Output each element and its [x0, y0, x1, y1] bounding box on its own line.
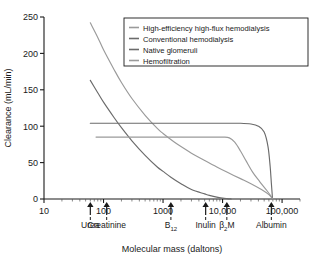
y-axis-title: Clearance (mL/min) — [3, 68, 13, 147]
x-tick-label: 10 — [39, 206, 49, 216]
marker-arrow-head-0 — [87, 202, 93, 207]
x-tick-label: 100 — [96, 206, 111, 216]
marker-arrow-head-2 — [168, 202, 174, 207]
y-tick-label: 0 — [33, 194, 38, 204]
y-tick-label: 150 — [23, 85, 38, 95]
chart-svg: 050100150200250Clearance (mL/min)1010010… — [0, 0, 316, 261]
y-tick-label: 100 — [23, 122, 38, 132]
x-tick-label: 10,000 — [209, 206, 237, 216]
marker-label-5: Albumin — [256, 220, 287, 230]
marker-label-3: Inulin — [195, 220, 216, 230]
y-tick-label: 200 — [23, 49, 38, 59]
legend-label-0: High-efficiency high-flux hemodialysis — [143, 24, 270, 33]
marker-label-1: Creatinine — [87, 220, 126, 230]
marker-arrow-head-4 — [224, 202, 230, 207]
y-tick-label: 250 — [23, 12, 38, 22]
marker-label-4: β2M — [219, 220, 234, 232]
series-line-3 — [96, 137, 273, 199]
x-axis-title: Molecular mass (daltons) — [122, 244, 223, 254]
legend-label-3: Hemofiltration — [143, 57, 190, 66]
marker-label-2: B12 — [165, 220, 178, 232]
y-tick-label: 50 — [28, 158, 38, 168]
marker-arrow-head-1 — [103, 202, 109, 207]
legend-label-2: Native glomeruli — [143, 46, 198, 55]
figure: 050100150200250Clearance (mL/min)1010010… — [0, 0, 316, 261]
legend-label-1: Conventional hemodialysis — [143, 35, 234, 44]
x-tick-label: 1000 — [153, 206, 173, 216]
series-line-2 — [90, 123, 272, 199]
marker-arrow-head-5 — [268, 202, 274, 207]
marker-arrow-head-3 — [202, 202, 208, 207]
x-tick-label: 100,000 — [266, 206, 299, 216]
series-line-1 — [90, 80, 231, 199]
